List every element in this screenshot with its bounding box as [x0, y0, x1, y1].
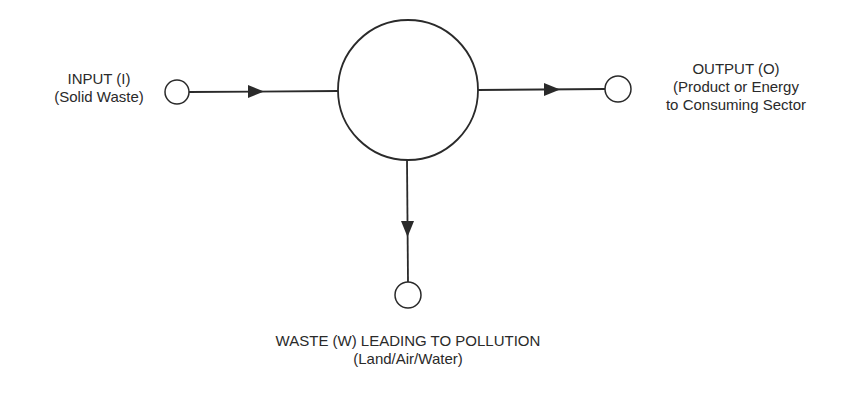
- output-label: OUTPUT (O) (Product or Energy to Consumi…: [636, 60, 836, 114]
- input-title: INPUT (I): [34, 70, 164, 88]
- input-label: INPUT (I) (Solid Waste): [34, 70, 164, 106]
- input-subtitle: (Solid Waste): [34, 88, 164, 106]
- output-edge: [478, 89, 605, 90]
- waste-label: WASTE (W) LEADING TO POLLUTION (Land/Air…: [208, 332, 608, 368]
- output-arrow-icon: [544, 83, 560, 96]
- waste-arrow-icon: [401, 221, 414, 237]
- waste-node: [395, 282, 421, 308]
- input-arrow-icon: [248, 85, 264, 98]
- output-subtitle-line2: to Consuming Sector: [636, 96, 836, 114]
- output-node: [605, 76, 631, 102]
- process-node: [338, 20, 478, 160]
- output-subtitle-line1: (Product or Energy: [636, 78, 836, 96]
- input-node: [165, 80, 189, 104]
- waste-subtitle: (Land/Air/Water): [208, 350, 608, 368]
- waste-title: WASTE (W) LEADING TO POLLUTION: [208, 332, 608, 350]
- output-title: OUTPUT (O): [636, 60, 836, 78]
